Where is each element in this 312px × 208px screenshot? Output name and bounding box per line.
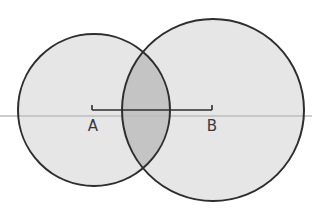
overlapping-circles-diagram: A B bbox=[0, 0, 312, 208]
label-b: B bbox=[207, 117, 217, 135]
label-a: A bbox=[88, 117, 99, 135]
